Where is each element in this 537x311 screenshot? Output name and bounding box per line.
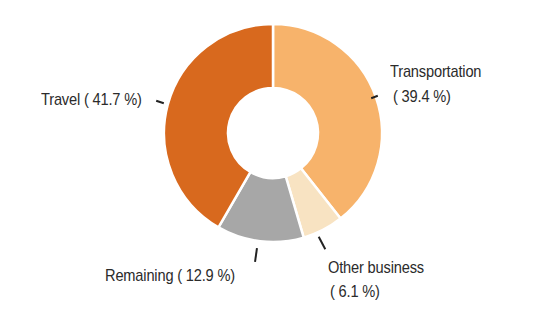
label-travel: Travel ( 41.7 %) xyxy=(41,89,142,110)
label-transportation-value: ( 39.4 %) xyxy=(393,86,451,107)
label-transportation-name: Transportation xyxy=(390,61,481,82)
label-other-business-value: ( 6.1 %) xyxy=(330,281,380,302)
label-remaining: Remaining ( 12.9 %) xyxy=(105,265,235,286)
label-other-business-name: Other business xyxy=(328,257,424,278)
donut-chart xyxy=(0,0,537,311)
